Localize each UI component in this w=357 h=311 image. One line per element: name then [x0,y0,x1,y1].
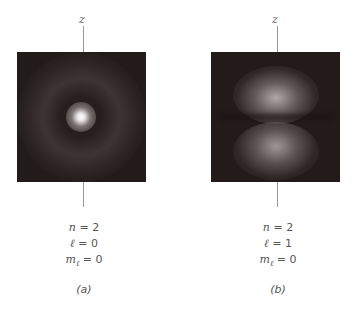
probability-density-2s [17,52,146,182]
center-core-glow [66,102,96,132]
m-value: mℓ = 0 [44,252,124,272]
caption-b: (b) [238,283,318,296]
n-value: n = 2 [44,220,124,236]
quantum-numbers: n = 2 ℓ = 1 mℓ = 0 [238,220,318,272]
z-axis-bottom [83,182,84,207]
l-value: ℓ = 0 [44,236,124,252]
n-value: n = 2 [238,220,318,236]
z-axis-top [83,26,84,52]
caption-a: (a) [44,283,124,296]
z-axis-top [277,26,278,52]
z-axis-label: z [272,13,278,26]
panel-a: z n = 2 ℓ = 0 mℓ = 0 (a) [0,0,160,311]
probability-density-2p [211,52,340,182]
z-axis-label: z [79,13,85,26]
panel-b: z n = 2 ℓ = 1 mℓ = 0 (b) [194,0,354,311]
m-value: mℓ = 0 [238,252,318,272]
nodal-plane [221,114,331,120]
lower-lobe-glow [233,122,319,180]
l-value: ℓ = 1 [238,236,318,252]
quantum-numbers: n = 2 ℓ = 0 mℓ = 0 [44,220,124,272]
z-axis-bottom [277,182,278,207]
